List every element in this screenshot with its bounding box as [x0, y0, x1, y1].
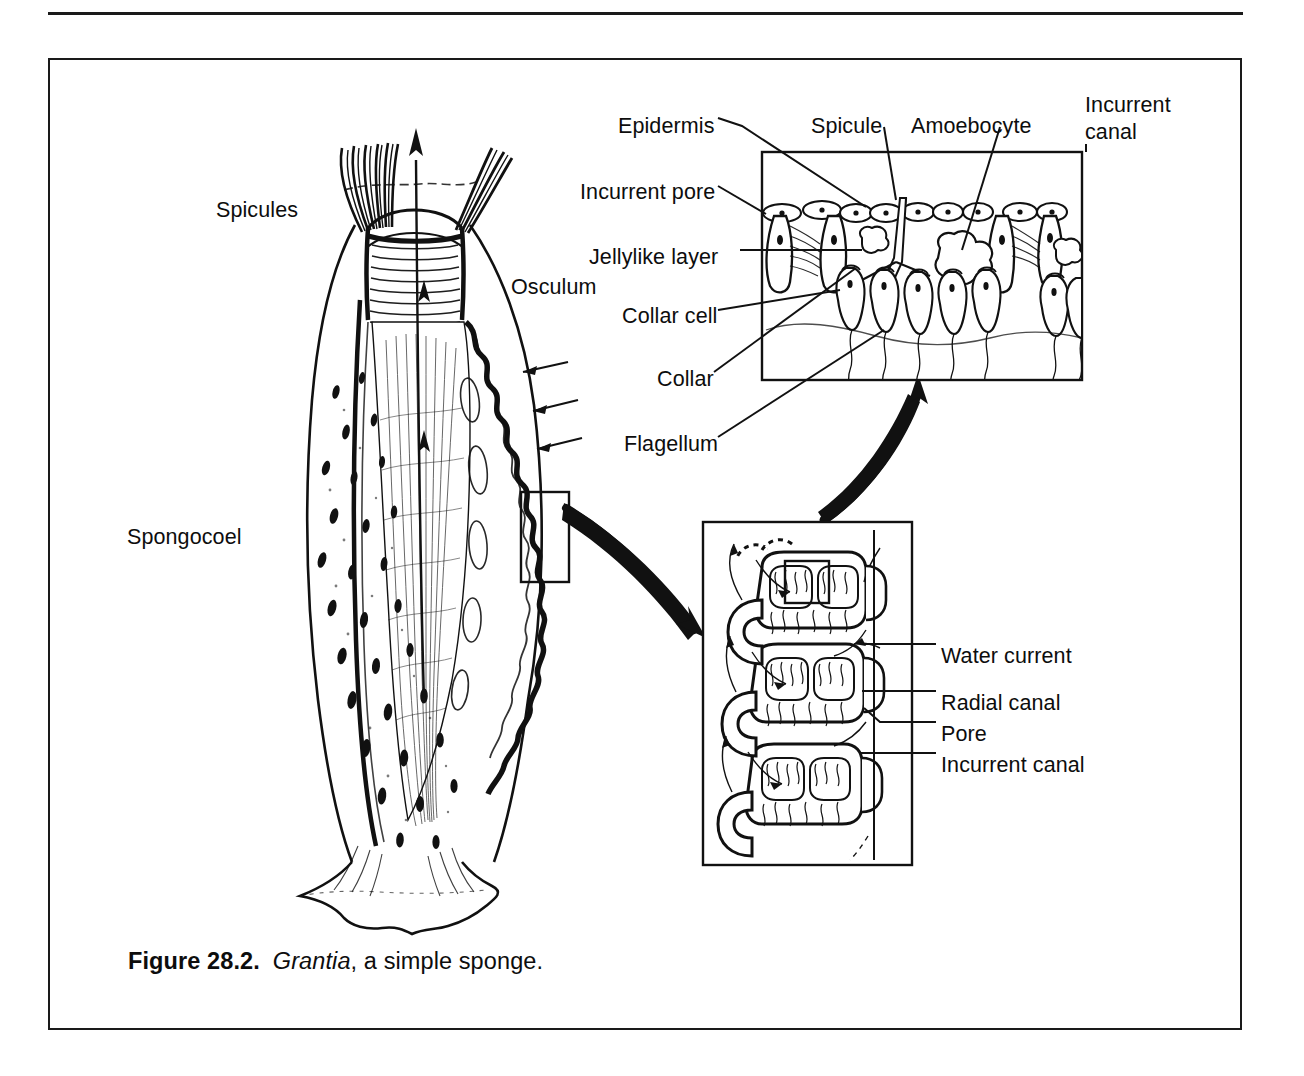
figure-caption: Figure 28.2.Grantia, a simple sponge.: [128, 948, 543, 975]
label-incurrent-canal-top: Incurrent canal: [1085, 92, 1235, 146]
figure-number: Figure 28.2.: [128, 948, 260, 974]
figure-genus: Grantia: [273, 948, 351, 974]
label-collar-cell: Collar cell: [622, 303, 718, 329]
label-radial-canal: Radial canal: [941, 690, 1061, 716]
label-water-current: Water current: [941, 643, 1072, 669]
label-collar: Collar: [657, 366, 714, 392]
label-jellylike-layer: Jellylike layer: [589, 244, 718, 270]
label-amoebocyte: Amoebocyte: [911, 113, 1032, 139]
label-incurrent-canal-bottom: Incurrent canal: [941, 752, 1085, 778]
label-spicule: Spicule: [811, 113, 882, 139]
figure-page: Spicules Osculum Spongocoel Epidermis Sp…: [0, 0, 1304, 1076]
label-spongocoel: Spongocoel: [127, 524, 242, 550]
figure-caption-rest: , a simple sponge.: [351, 948, 544, 974]
label-incurrent-pore: Incurrent pore: [580, 179, 715, 205]
label-flagellum: Flagellum: [624, 431, 718, 457]
label-osculum: Osculum: [511, 274, 597, 300]
label-incurrent-canal-line1: Incurrent: [1085, 92, 1235, 119]
label-pore: Pore: [941, 721, 987, 747]
page-top-rule: [48, 12, 1243, 15]
label-epidermis: Epidermis: [618, 113, 715, 139]
label-spicules: Spicules: [216, 197, 298, 223]
label-incurrent-canal-line2: canal: [1085, 119, 1235, 146]
